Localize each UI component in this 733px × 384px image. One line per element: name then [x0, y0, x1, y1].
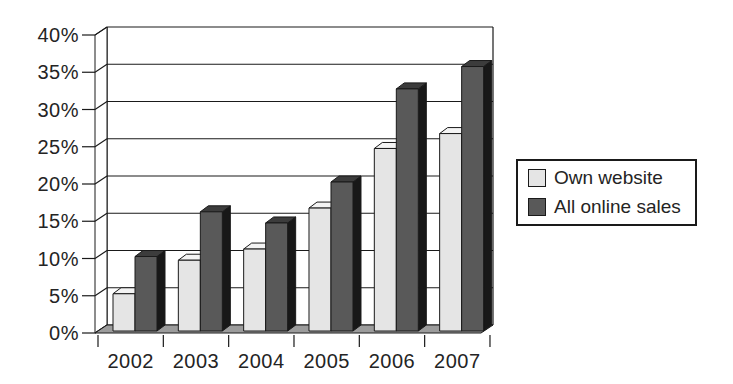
- legend-item-own-website: Own website: [528, 167, 695, 189]
- legend-item-all-online-sales: All online sales: [528, 196, 695, 218]
- legend-label-own-website: Own website: [554, 167, 663, 189]
- chart-figure: 0%5%10%15%20%25%30%35%40% 20022003200420…: [0, 0, 733, 384]
- x-axis-tick-label: 2007: [417, 350, 497, 372]
- own-website-swatch-icon: [528, 169, 546, 187]
- all-online-sales-swatch-icon: [528, 198, 546, 216]
- legend: Own website All online sales: [516, 159, 697, 226]
- legend-label-all-online-sales: All online sales: [554, 196, 681, 218]
